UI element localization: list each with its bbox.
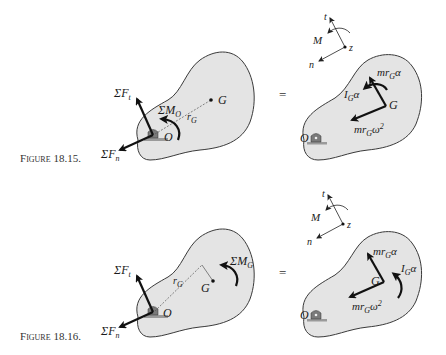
equals-sign: = <box>279 265 286 280</box>
label-force-n: ΣFn <box>100 147 119 163</box>
svg-text:n: n <box>307 236 312 247</box>
svg-text:t: t <box>322 188 325 199</box>
svg-text:M: M <box>310 211 321 223</box>
figure-caption: FIGURE18.16. <box>20 330 81 342</box>
svg-text:z: z <box>348 42 353 53</box>
rigid-body-left <box>137 52 254 160</box>
label-center: G <box>201 281 210 295</box>
figure-18-15: ΣFt ΣFn ΣMO rG O G FIGURE18.15. = t n z … <box>20 11 422 164</box>
svg-text:M: M <box>312 34 323 46</box>
label-force-t: ΣFt <box>113 86 131 102</box>
label-pivot: O <box>163 306 172 320</box>
axes-triad: t n z M <box>309 11 353 70</box>
mass-center <box>209 98 213 102</box>
label-force-n: ΣFn <box>100 324 119 340</box>
label-center: G <box>389 98 398 112</box>
pivot-pin-hole <box>315 137 318 140</box>
pivot-support <box>307 319 327 322</box>
axes-triad: t n z M <box>307 188 351 247</box>
label-force-t: ΣFt <box>113 263 131 279</box>
figure-caption: FIGURE18.15. <box>20 152 81 164</box>
label-pivot: O <box>164 130 173 144</box>
pivot-support <box>307 142 327 145</box>
svg-text:z: z <box>346 219 351 230</box>
svg-text:t: t <box>324 11 327 22</box>
kinetic-diagrams: ΣFt ΣFn ΣMO rG O G FIGURE18.15. = t n z … <box>0 0 446 355</box>
label-pivot: O <box>300 131 309 145</box>
figure-18-16: ΣFt ΣFn ΣMG rG O G FIGURE18.16. = t n z … <box>20 188 422 342</box>
label-center: G <box>371 274 380 288</box>
label-center: G <box>218 93 227 107</box>
mass-center <box>211 279 215 283</box>
equals-sign: = <box>279 87 286 102</box>
pivot-pin-hole <box>315 314 318 317</box>
label-pivot: O <box>300 308 309 322</box>
svg-text:n: n <box>309 59 314 70</box>
